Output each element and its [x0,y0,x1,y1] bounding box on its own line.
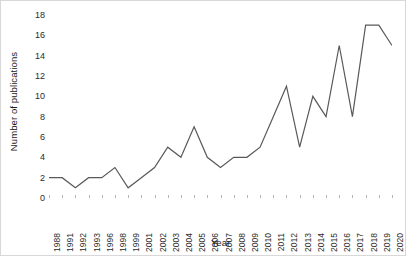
x-axis-ticks: 1988199119921993199619981999200120022003… [49,199,392,235]
x-tick-mark [89,195,90,198]
x-tick-mark [392,195,393,198]
y-tick-label: 8 [27,112,45,121]
line-chart-svg [49,15,392,198]
chart-figure: Number of publications 024681012141618 1… [0,0,406,256]
y-tick-label: 0 [27,194,45,203]
y-tick-label: 12 [27,72,45,81]
y-tick-label: 10 [27,92,45,101]
x-tick-mark [260,195,261,198]
x-tick-mark [286,195,287,198]
x-tick-mark [62,195,63,198]
x-tick-mark [234,195,235,198]
x-tick-mark [300,195,301,198]
y-tick-label: 18 [27,11,45,20]
x-tick-mark [379,195,380,198]
y-axis-title-text: Number of publications [9,51,20,150]
x-tick-mark [221,195,222,198]
y-tick-label: 14 [27,51,45,60]
x-tick-mark [339,195,340,198]
y-tick-label: 6 [27,133,45,142]
x-tick-mark [141,195,142,198]
x-tick-mark [352,195,353,198]
plot-area [49,15,392,198]
series-line-publications [49,25,392,188]
x-tick-label: 2020 [396,233,405,252]
x-tick-mark [128,195,129,198]
x-tick-mark [194,195,195,198]
x-tick-mark [115,195,116,198]
y-tick-label: 16 [27,31,45,40]
x-tick-mark [326,195,327,198]
x-tick-mark [155,195,156,198]
x-tick-mark [49,195,50,198]
y-axis-title: Number of publications [3,1,25,201]
y-axis-ticks: 024681012141618 [23,1,45,201]
x-tick-mark [102,195,103,198]
x-tick-mark [313,195,314,198]
x-tick-mark [247,195,248,198]
x-tick-mark [75,195,76,198]
x-tick-mark [273,195,274,198]
x-tick-mark [207,195,208,198]
y-tick-label: 2 [27,173,45,182]
x-tick-mark [366,195,367,198]
y-tick-label: 4 [27,153,45,162]
x-tick-mark [181,195,182,198]
x-axis-title: Year [49,237,392,248]
x-tick-mark [168,195,169,198]
